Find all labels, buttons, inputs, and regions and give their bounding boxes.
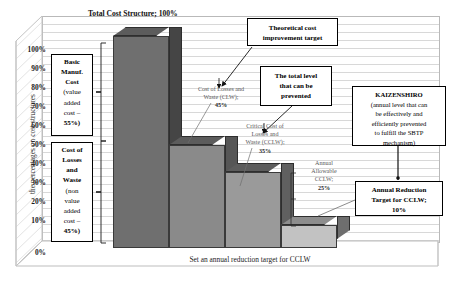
chart-title: Total Cost Structure; 100% [88, 9, 178, 18]
bar-front-face [225, 172, 281, 248]
total-level-line-3: prevented [263, 91, 329, 101]
diagram-canvas: Total Cost Structure; 100% 100% 90% 80% … [0, 0, 454, 288]
clw-box-line-9: 45%) [54, 226, 90, 236]
label-clw-45: Cost of Losses and Waste (CLW); 45% [181, 85, 261, 110]
allowable-label-line-2: Allowable [297, 167, 351, 175]
bar-cost-of-losses-and-waste [169, 145, 225, 248]
total-level-line-2: that can be [263, 81, 329, 91]
clw-box-line-7: added [54, 206, 90, 216]
basic-cost-line-1: Basic [54, 57, 90, 67]
bar-annual-reduction-target [281, 225, 337, 248]
basic-cost-line-3: Cost [54, 77, 90, 87]
clw-label-line-1: Cost of Losses and [181, 85, 261, 93]
basic-cost-line-2: Manuf. [54, 67, 90, 77]
bar-front-face [113, 36, 169, 248]
bar-front-face [281, 225, 337, 248]
kaizenshiro-line-6: mechanism) [355, 138, 443, 148]
allowable-label-line-1: Annual [297, 159, 351, 167]
clw-box-line-1: Cost of [54, 145, 90, 155]
callout-basic-manuf-cost: Basic Manuf. Cost (value added cost – 55… [51, 54, 93, 136]
bar-critical-cost-of-losses-and-waste [225, 172, 281, 248]
kaizenshiro-line-4: efficiently prevented [355, 119, 443, 129]
clw-label-line-2: Waste (CLW); [181, 93, 261, 101]
clw-box-line-5: (non [54, 186, 90, 196]
total-level-line-1: The total level [263, 71, 329, 81]
cclw-label-line-1: Critical Cost of [229, 122, 301, 130]
callout-annual-reduction-target: Annual Reduction Target for CCLW; 10% [355, 181, 443, 216]
y-axis-title: the percentages on cost structures [29, 64, 37, 224]
clw-box-line-6: value [54, 196, 90, 206]
kaizenshiro-line-3: be effectively and [355, 109, 443, 119]
basic-cost-line-4: (value [54, 87, 90, 97]
cclw-label-line-2: Losses and [229, 130, 301, 138]
theoretical-line-1: Theoretical cost [250, 23, 335, 33]
clw-box-line-3: and [54, 165, 90, 175]
callout-cost-of-losses-and-waste: Cost of Losses and Waste (non value adde… [51, 142, 93, 242]
y-tick-0: 0% [12, 248, 46, 257]
basic-cost-line-7: 55%) [54, 118, 90, 128]
x-axis-title: Set an annual reduction target for CCLW [150, 255, 350, 264]
label-cclw-35: Critical Cost of Losses and Waste (CCLW)… [229, 122, 301, 155]
y-tick-100: 100% [12, 45, 46, 54]
callout-kaizenshiro: KAIZENSHIRO (annual level that can be ef… [352, 86, 446, 146]
annual-reduction-line-1: Annual Reduction [358, 185, 440, 195]
callout-theoretical-cost-improvement-target: Theoretical cost improvement target [247, 18, 338, 46]
theoretical-line-2: improvement target [250, 33, 335, 43]
clw-box-line-8: cost – [54, 216, 90, 226]
label-annual-allowable-cclw-25: Annual Allowable CCLW; 25% [297, 159, 351, 192]
y-axis-ticks: 100% 90% 80% 70% 60% 50% 40% 30% 20% 10%… [6, 0, 46, 288]
allowable-label-line-3: CCLW; [297, 175, 351, 183]
kaizenshiro-line-5: to fulfill the SBTP [355, 128, 443, 138]
basic-cost-line-6: cost – [54, 108, 90, 118]
annual-reduction-line-2: Target for CCLW; [358, 195, 440, 205]
callout-total-level-prevented: The total level that can be prevented [260, 66, 332, 106]
bar-total-cost-structure [113, 36, 169, 248]
clw-box-line-2: Losses [54, 155, 90, 165]
basic-cost-line-5: added [54, 98, 90, 108]
bar-front-face [169, 145, 225, 248]
cclw-label-pct: 35% [229, 147, 301, 155]
kaizenshiro-line-2: (annual level that can [355, 100, 443, 110]
clw-box-line-4: Waste [54, 175, 90, 185]
cclw-label-line-3: Waste (CCLW); [229, 138, 301, 146]
kaizenshiro-title: KAIZENSHIRO [355, 90, 443, 100]
annual-reduction-line-3: 10% [358, 205, 440, 215]
allowable-label-pct: 25% [297, 184, 351, 192]
clw-label-pct: 45% [181, 101, 261, 109]
